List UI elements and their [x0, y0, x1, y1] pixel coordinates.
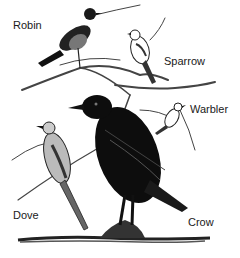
- ground: [18, 220, 210, 242]
- label-sparrow: Sparrow: [164, 56, 205, 67]
- warbler-bird: [155, 103, 186, 135]
- label-crow: Crow: [188, 217, 214, 228]
- label-robin: Robin: [13, 20, 42, 31]
- dove-bird: [36, 122, 88, 230]
- label-dove: Dove: [13, 210, 39, 221]
- label-warbler: Warbler: [190, 104, 228, 115]
